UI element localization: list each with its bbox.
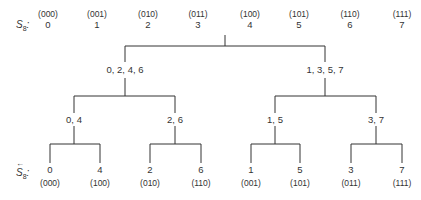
leaf-value: 7 [399, 165, 404, 175]
top-value: 7 [399, 20, 404, 30]
label-colon: : [27, 167, 30, 178]
top-binary: (010) [138, 9, 158, 19]
top-binary: (110) [340, 9, 359, 19]
top-binary: (101) [289, 9, 309, 19]
top-value: 6 [347, 20, 352, 30]
top-binary: (100) [240, 9, 260, 19]
top-value: 0 [45, 20, 50, 30]
bottom-sequence-label: ← S8: [16, 168, 29, 182]
leaf-value: 0 [47, 165, 52, 175]
leaf-binary: (110) [191, 178, 210, 188]
left-arrow-accent-icon: ← [16, 160, 24, 168]
top-sequence-label: S8: [16, 20, 29, 34]
node-even: 0, 2, 4, 6 [107, 65, 144, 75]
label-symbol: S [16, 19, 23, 30]
top-binary: (011) [188, 9, 207, 19]
label-colon: : [27, 19, 30, 30]
top-value: 3 [195, 20, 200, 30]
node-2-6: 2, 6 [167, 115, 183, 125]
top-binary: (111) [393, 9, 412, 19]
top-value: 5 [296, 20, 301, 30]
top-value: 1 [94, 20, 99, 30]
leaf-binary: (101) [290, 178, 310, 188]
leaf-value: 1 [248, 165, 253, 175]
leaf-binary: (000) [40, 178, 60, 188]
leaf-binary: (100) [90, 178, 110, 188]
tree-lines [0, 0, 421, 200]
leaf-binary: (010) [140, 178, 160, 188]
node-3-7: 3, 7 [368, 115, 384, 125]
leaf-binary: (011) [341, 178, 360, 188]
leaf-binary: (001) [241, 178, 261, 188]
top-value: 4 [247, 20, 252, 30]
leaf-value: 4 [97, 165, 102, 175]
top-binary: (000) [38, 9, 58, 19]
leaf-binary: (111) [393, 178, 412, 188]
top-binary: (001) [87, 9, 107, 19]
leaf-value: 5 [297, 165, 302, 175]
node-odd: 1, 3, 5, 7 [307, 65, 344, 75]
leaf-value: 3 [348, 165, 353, 175]
label-symbol: S [16, 167, 23, 178]
leaf-value: 6 [198, 165, 203, 175]
top-value: 2 [145, 20, 150, 30]
node-0-4: 0, 4 [66, 115, 82, 125]
leaf-value: 2 [147, 165, 152, 175]
node-1-5: 1, 5 [267, 115, 283, 125]
